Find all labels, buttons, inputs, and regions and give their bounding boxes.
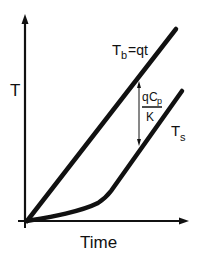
gap-annotation: q C p K: [142, 90, 162, 124]
y-axis-arrow-icon: [22, 14, 29, 24]
bulk-label-main: T: [112, 41, 121, 58]
surface-temperature-curve: [27, 91, 182, 221]
x-axis-label: Time: [80, 233, 117, 252]
gap-double-arrow: [137, 81, 141, 146]
bulk-temperature-line: [27, 29, 176, 221]
surface-label-sub: s: [180, 131, 186, 143]
gap-arrow-down-icon: [137, 139, 141, 146]
gap-numerator-q: q: [142, 90, 149, 104]
bulk-label-sub: b: [121, 49, 127, 61]
gap-denominator: K: [146, 110, 154, 124]
gap-numerator-sub: p: [157, 96, 162, 106]
temperature-time-diagram: T Time T b =qt q C p K T s: [0, 0, 197, 260]
y-axis: [22, 14, 29, 222]
surface-line-label: T s: [171, 122, 186, 143]
bulk-line-label: T b =qt: [112, 41, 148, 61]
x-axis-arrow-icon: [179, 218, 189, 225]
y-axis-label: T: [10, 81, 20, 100]
surface-label-main: T: [171, 122, 180, 139]
bulk-label-rest: =qt: [128, 42, 148, 58]
